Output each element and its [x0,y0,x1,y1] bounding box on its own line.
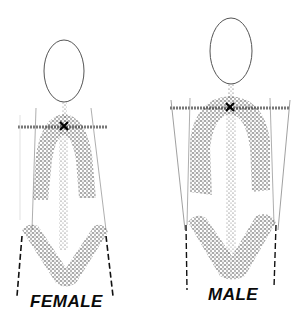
male-head [210,18,252,84]
female-spine [59,120,68,250]
female-head [44,40,84,102]
proportion-diagram [0,0,305,323]
male-leg-line-right [274,225,276,288]
female-label: FEMALE [30,292,103,312]
male-guide-right-outer [278,100,290,230]
male-spine [226,104,236,254]
female-leg-line-left [17,236,22,296]
female-leg-line-right [106,236,113,296]
male-guide-left-outer [171,100,185,230]
male-leg-line-left [186,225,187,290]
female-figure [17,40,113,296]
male-label: MALE [208,285,258,305]
male-figure [170,18,290,290]
male-guide-right-inner [270,98,274,225]
male-guide-left-inner [187,98,190,225]
